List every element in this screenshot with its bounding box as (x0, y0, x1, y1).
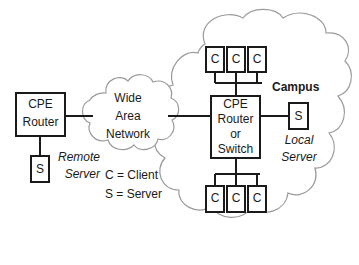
legend: C = Client S = Server (105, 168, 162, 201)
campus-cpe-router-label-line4: Switch (218, 142, 253, 156)
remote-server-caption-line2: Server (65, 167, 101, 181)
local-server-glyph: S (294, 109, 302, 123)
local-server-caption-line1: Local (285, 133, 314, 147)
campus-bottom-client-3-glyph: C (253, 191, 262, 205)
legend-server-entry: S = Server (105, 187, 162, 201)
campus-bottom-clients: C C C (206, 186, 266, 212)
remote-cpe-router-label-line2: Router (22, 115, 58, 129)
campus-top-client-2[interactable]: C (227, 47, 245, 72)
remote-server-glyph: S (36, 162, 44, 176)
local-server-caption-line2: Server (281, 150, 317, 164)
campus-cpe-router-node[interactable]: CPE Router or Switch (211, 96, 260, 158)
campus-top-client-1-glyph: C (211, 52, 220, 66)
campus-top-client-1[interactable]: C (206, 47, 224, 72)
campus-bottom-client-3[interactable]: C (248, 186, 266, 212)
campus-bottom-client-1[interactable]: C (206, 186, 224, 212)
remote-server-node[interactable]: S (31, 156, 49, 182)
local-server-node[interactable]: S (289, 103, 308, 129)
campus-cpe-router-label-line2: Router (217, 112, 253, 126)
network-diagram-canvas: CPE Router S Remote Server Wide Area Net… (0, 0, 359, 265)
campus-bottom-client-1-glyph: C (211, 191, 220, 205)
remote-cpe-router-label-line1: CPE (28, 97, 53, 111)
campus-bottom-client-2-glyph: C (232, 191, 241, 205)
remote-server-caption-line1: Remote (58, 150, 100, 164)
campus-bottom-client-2[interactable]: C (227, 186, 245, 212)
campus-top-clients: C C C (206, 47, 266, 72)
legend-client-entry: C = Client (105, 168, 159, 182)
campus-label: Campus (272, 80, 320, 94)
campus-top-client-2-glyph: C (232, 52, 241, 66)
campus-cpe-router-label-line1: CPE (223, 97, 248, 111)
campus-cpe-router-label-line3: or (230, 127, 241, 141)
campus-top-client-3-glyph: C (253, 52, 262, 66)
wan-label-line1: Wide (114, 91, 142, 105)
wan-label-line2: Area (115, 109, 141, 123)
campus-top-client-3[interactable]: C (248, 47, 266, 72)
remote-cpe-router-node[interactable]: CPE Router (16, 93, 65, 136)
wan-label-line3: Network (106, 127, 151, 141)
